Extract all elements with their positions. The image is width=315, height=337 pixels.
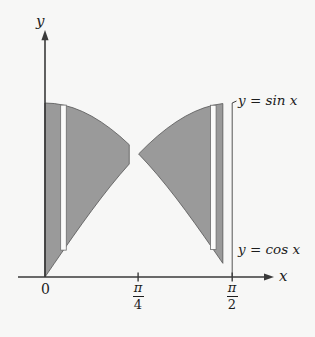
representative-strip-right [210, 105, 216, 249]
shaded-region-left [45, 103, 129, 277]
x-axis-label: x [279, 269, 287, 284]
fraction-numerator: π [219, 281, 245, 295]
x-tick-label-pi-over-2: π 2 [219, 281, 245, 311]
x-tick-label-origin: 0 [41, 282, 50, 296]
fraction-denominator: 4 [125, 298, 151, 312]
sine-curve-label: y = sin x [238, 94, 297, 108]
representative-strip-left [61, 105, 67, 250]
fraction-numerator: π [125, 281, 151, 295]
cosine-curve-label: y = cos x [238, 243, 300, 257]
sine-label-leader [232, 101, 236, 103]
x-axis-arrowhead [264, 273, 274, 280]
x-tick-label-pi-over-4: π 4 [125, 281, 151, 311]
fraction-denominator: 2 [219, 298, 245, 312]
y-axis-arrowhead [41, 30, 48, 40]
figure-container: y x y = sin x y = cos x 0 π 4 π 2 [0, 0, 315, 337]
y-axis-label: y [36, 14, 44, 29]
